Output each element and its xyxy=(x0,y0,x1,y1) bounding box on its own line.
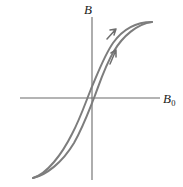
hysteresis-plot-svg xyxy=(0,0,183,187)
vertical-axis-label: B xyxy=(84,3,92,16)
arrow-descending-icon xyxy=(107,29,116,39)
hysteresis-figure: B B0 xyxy=(0,0,183,187)
horizontal-axis-label-subscript: 0 xyxy=(171,98,175,108)
horizontal-axis-label: B0 xyxy=(163,92,175,105)
horizontal-axis-label-symbol: B xyxy=(163,91,171,106)
